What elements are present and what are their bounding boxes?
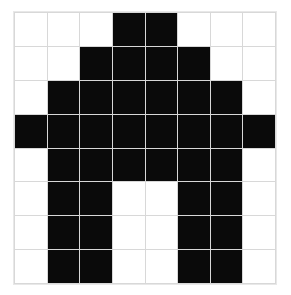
- grid-cell-r6-c1[interactable]: [48, 216, 80, 249]
- grid-cell-r3-c2[interactable]: [80, 115, 112, 148]
- grid-cell-r6-c7[interactable]: [243, 216, 275, 249]
- grid-cell-r7-c0[interactable]: [15, 250, 47, 283]
- grid-cell-r6-c5[interactable]: [178, 216, 210, 249]
- grid-cell-r7-c7[interactable]: [243, 250, 275, 283]
- grid-cell-r3-c3[interactable]: [113, 115, 145, 148]
- grid-cell-r7-c3[interactable]: [113, 250, 145, 283]
- grid-cell-r2-c5[interactable]: [178, 81, 210, 114]
- grid-cell-r1-c4[interactable]: [146, 47, 178, 80]
- grid-cell-r6-c2[interactable]: [80, 216, 112, 249]
- grid-cell-r5-c6[interactable]: [211, 182, 243, 215]
- grid-cell-r2-c2[interactable]: [80, 81, 112, 114]
- grid-cell-r6-c3[interactable]: [113, 216, 145, 249]
- grid-cell-r3-c1[interactable]: [48, 115, 80, 148]
- grid-cell-r7-c5[interactable]: [178, 250, 210, 283]
- grid-cell-r0-c3[interactable]: [113, 13, 145, 46]
- grid-cell-r1-c6[interactable]: [211, 47, 243, 80]
- grid-cell-r1-c0[interactable]: [15, 47, 47, 80]
- pixel-grid[interactable]: [13, 11, 277, 285]
- grid-cell-r0-c4[interactable]: [146, 13, 178, 46]
- grid-cell-r3-c4[interactable]: [146, 115, 178, 148]
- grid-cell-r7-c6[interactable]: [211, 250, 243, 283]
- grid-cell-r0-c0[interactable]: [15, 13, 47, 46]
- grid-cell-r2-c7[interactable]: [243, 81, 275, 114]
- grid-cell-r1-c2[interactable]: [80, 47, 112, 80]
- grid-cell-r2-c6[interactable]: [211, 81, 243, 114]
- grid-cell-r6-c6[interactable]: [211, 216, 243, 249]
- grid-cell-r1-c3[interactable]: [113, 47, 145, 80]
- grid-cell-r4-c1[interactable]: [48, 149, 80, 182]
- grid-cell-r1-c5[interactable]: [178, 47, 210, 80]
- grid-cell-r0-c7[interactable]: [243, 13, 275, 46]
- grid-cell-r1-c1[interactable]: [48, 47, 80, 80]
- grid-cell-r2-c3[interactable]: [113, 81, 145, 114]
- pixel-canvas-root: [0, 0, 291, 295]
- grid-cell-r0-c5[interactable]: [178, 13, 210, 46]
- grid-cell-r4-c7[interactable]: [243, 149, 275, 182]
- grid-cell-r4-c4[interactable]: [146, 149, 178, 182]
- grid-cell-r3-c6[interactable]: [211, 115, 243, 148]
- grid-cell-r4-c3[interactable]: [113, 149, 145, 182]
- grid-cell-r4-c5[interactable]: [178, 149, 210, 182]
- grid-cell-r4-c0[interactable]: [15, 149, 47, 182]
- grid-cell-r5-c2[interactable]: [80, 182, 112, 215]
- grid-cell-r3-c0[interactable]: [15, 115, 47, 148]
- grid-cell-r5-c0[interactable]: [15, 182, 47, 215]
- grid-cell-r2-c0[interactable]: [15, 81, 47, 114]
- grid-cell-r6-c4[interactable]: [146, 216, 178, 249]
- grid-cell-r0-c1[interactable]: [48, 13, 80, 46]
- grid-cell-r5-c3[interactable]: [113, 182, 145, 215]
- grid-cell-r2-c1[interactable]: [48, 81, 80, 114]
- grid-cell-r4-c2[interactable]: [80, 149, 112, 182]
- grid-cell-r7-c1[interactable]: [48, 250, 80, 283]
- grid-cell-r1-c7[interactable]: [243, 47, 275, 80]
- grid-cell-r7-c4[interactable]: [146, 250, 178, 283]
- grid-cell-r5-c5[interactable]: [178, 182, 210, 215]
- grid-cell-r4-c6[interactable]: [211, 149, 243, 182]
- grid-cell-r6-c0[interactable]: [15, 216, 47, 249]
- grid-cell-r0-c6[interactable]: [211, 13, 243, 46]
- grid-cell-r0-c2[interactable]: [80, 13, 112, 46]
- grid-cell-r3-c7[interactable]: [243, 115, 275, 148]
- grid-cell-r3-c5[interactable]: [178, 115, 210, 148]
- grid-cell-r2-c4[interactable]: [146, 81, 178, 114]
- grid-cell-r5-c1[interactable]: [48, 182, 80, 215]
- grid-cell-r7-c2[interactable]: [80, 250, 112, 283]
- grid-cell-r5-c7[interactable]: [243, 182, 275, 215]
- grid-cell-r5-c4[interactable]: [146, 182, 178, 215]
